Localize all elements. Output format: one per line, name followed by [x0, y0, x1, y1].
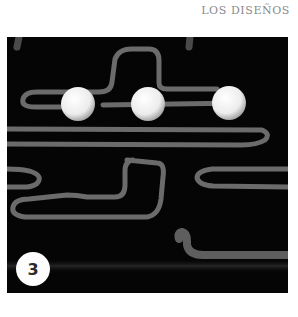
step-number-badge: 3	[16, 252, 50, 286]
figure-photo	[7, 37, 288, 293]
white-balls	[61, 86, 246, 121]
figure-caption	[8, 311, 218, 317]
rope-loops	[7, 37, 288, 255]
rope-and-balls-illustration	[7, 37, 288, 293]
section-title: LOS DISEÑOS	[201, 4, 290, 17]
